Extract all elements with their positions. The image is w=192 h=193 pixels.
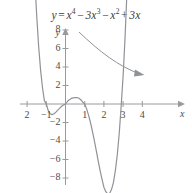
x-tick-label--2: 2 <box>18 109 36 120</box>
curved-pointer-arrow <box>79 32 140 74</box>
y-tick-label-2: 2 <box>41 79 61 90</box>
x-axis-arrowhead <box>178 101 185 107</box>
plot-canvas <box>0 0 192 193</box>
y-axis-arrowhead <box>62 28 68 35</box>
function-graph-figure: y=x4−3x3−x2+3x y x 2−112348642−2−4−6−8 <box>0 0 192 193</box>
x-tick-label-2: 2 <box>95 109 113 120</box>
x-tick-label-3: 3 <box>114 109 132 120</box>
y-tick-label--6: −6 <box>41 153 61 164</box>
y-tick-label--4: −4 <box>41 134 61 145</box>
y-tick-label-6: 6 <box>41 42 61 53</box>
y-tick-label--2: −2 <box>41 116 61 127</box>
x-tick-label-1: 1 <box>76 109 94 120</box>
y-tick-label-8: 8 <box>41 23 61 34</box>
x-axis-label: x <box>180 108 184 119</box>
y-tick-label-4: 4 <box>41 60 61 71</box>
curved-pointer-arrowhead <box>134 70 145 77</box>
y-tick-label--8: −8 <box>41 171 61 182</box>
x-tick-label-4: 4 <box>133 109 151 120</box>
